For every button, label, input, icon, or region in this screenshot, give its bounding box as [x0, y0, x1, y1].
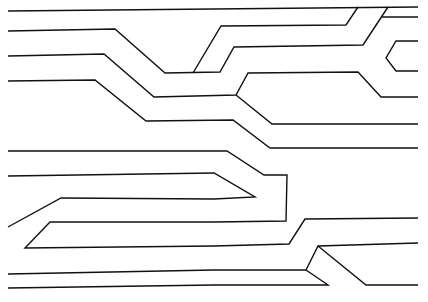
line-diagram	[0, 0, 428, 302]
diagram-line	[236, 95, 418, 124]
diagram-line	[8, 54, 418, 97]
diagram-line	[318, 246, 418, 285]
diagram-line	[8, 173, 255, 227]
diagram-line	[193, 7, 358, 73]
diagram-line	[386, 41, 418, 71]
diagram-line	[8, 7, 388, 73]
diagram-line	[8, 80, 418, 148]
